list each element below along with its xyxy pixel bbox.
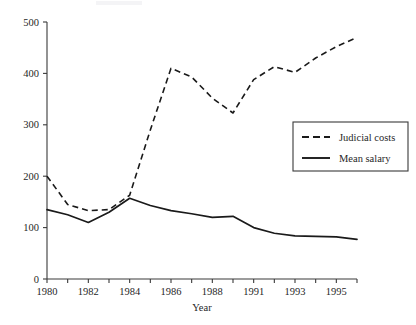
legend-label-judicial-costs: Judicial costs bbox=[339, 132, 395, 143]
x-axis-tick-labels: 19801982198419861988199119931995 bbox=[37, 286, 347, 297]
x-tick-label: 1982 bbox=[78, 286, 99, 297]
y-tick-label: 100 bbox=[23, 222, 39, 233]
chart-figure: 0100200300400500 19801982198419861988199… bbox=[0, 0, 416, 325]
x-axis-ticks bbox=[47, 279, 357, 283]
x-tick-label: 1991 bbox=[243, 286, 264, 297]
series-line-mean-salary bbox=[47, 198, 357, 239]
y-tick-label: 200 bbox=[23, 171, 39, 182]
y-tick-label: 400 bbox=[23, 68, 39, 79]
chart-legend: Judicial costs Mean salary bbox=[293, 122, 408, 171]
x-tick-label: 1993 bbox=[285, 286, 306, 297]
x-tick-label: 1988 bbox=[202, 286, 223, 297]
x-axis-title: Year bbox=[192, 302, 212, 313]
y-axis-ticks bbox=[43, 22, 47, 279]
x-tick-label: 1986 bbox=[161, 286, 182, 297]
y-tick-label: 500 bbox=[23, 17, 39, 28]
x-tick-label: 1995 bbox=[326, 286, 347, 297]
legend-label-mean-salary: Mean salary bbox=[339, 153, 391, 164]
y-tick-label: 0 bbox=[34, 274, 39, 285]
x-tick-label: 1984 bbox=[119, 286, 141, 297]
y-axis-tick-labels: 0100200300400500 bbox=[23, 17, 39, 285]
x-tick-label: 1980 bbox=[37, 286, 58, 297]
y-tick-label: 300 bbox=[23, 119, 39, 130]
line-chart: 0100200300400500 19801982198419861988199… bbox=[0, 0, 416, 325]
